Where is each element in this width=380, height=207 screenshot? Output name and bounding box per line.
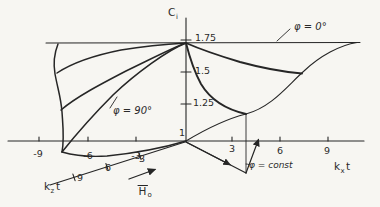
curve-lower-boundary-left <box>62 141 186 156</box>
x-tick-label-p6: 6 <box>277 145 283 156</box>
x-axis-symbol-sub: x <box>341 167 345 175</box>
curve-left-envelope <box>54 44 63 152</box>
curve-lower-boundary-right <box>186 43 357 142</box>
kz-tick-label-3: 3 <box>139 153 145 164</box>
phi-90-label: φ = 90° <box>113 105 152 116</box>
x-tick-label-m9: -9 <box>33 148 42 159</box>
kz-tick-label-6: 6 <box>105 162 111 173</box>
curve-left-branch-upper <box>57 43 186 73</box>
phi-0-label: φ = 0° <box>294 21 327 32</box>
x-axis-symbol-unit: t <box>346 160 350 172</box>
phi-const-label: φ = const <box>249 160 293 170</box>
x-tick-label-p3: 3 <box>229 143 235 154</box>
curve-phi90 <box>62 43 186 152</box>
kz-axis <box>50 142 185 185</box>
phi-const-ray-arrow <box>186 142 230 165</box>
h-field-arrow <box>129 170 155 180</box>
kz-tick-label-9: 9 <box>77 172 83 183</box>
phi0-leader-line <box>277 29 290 41</box>
x-tick-label-p9: 9 <box>324 145 330 156</box>
y-tick-label-175: 1.75 <box>195 32 216 43</box>
h-field-symbol-sub: o <box>148 191 152 199</box>
h-field-symbol: H <box>139 185 147 197</box>
kz-axis-symbol-unit: t <box>56 180 60 192</box>
y-tick-label-125: 1.25 <box>193 97 214 108</box>
y-axis-symbol-sub: i <box>176 13 178 21</box>
y-tick-label-100: 1 <box>179 127 185 138</box>
x-tick-label-m6: -6 <box>83 150 92 161</box>
figure-canvas: C i 1.75 1.5 1.25 1 -9 -6 -3 3 6 9 k x t… <box>0 0 380 207</box>
kz-axis-symbol-sub: z <box>51 187 55 195</box>
y-axis-symbol: C <box>168 6 175 18</box>
y-tick-label-150: 1.5 <box>195 65 210 76</box>
